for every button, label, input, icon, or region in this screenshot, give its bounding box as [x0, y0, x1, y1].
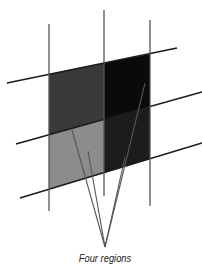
four-regions-diagram: [0, 0, 202, 276]
regions-group: [49, 54, 150, 189]
caption-label: Four regions: [16, 252, 195, 264]
